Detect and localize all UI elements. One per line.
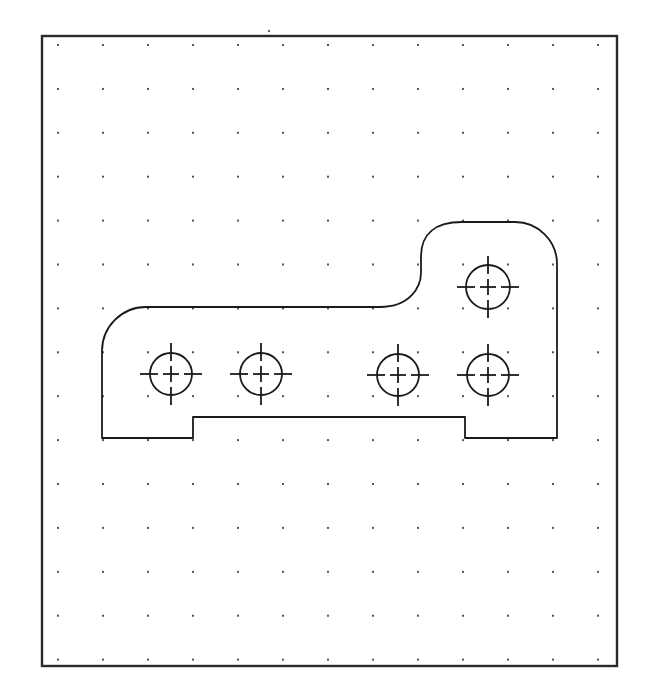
grid-dot — [102, 176, 104, 178]
grid-dot — [597, 483, 599, 485]
grid-dot — [507, 351, 509, 353]
grid-dot — [327, 44, 329, 46]
grid-dot — [507, 264, 509, 266]
grid-dot — [147, 439, 149, 441]
grid-dot — [192, 659, 194, 661]
grid-dot — [552, 659, 554, 661]
grid-dot — [102, 264, 104, 266]
grid-dot — [282, 44, 284, 46]
grid-dot — [597, 439, 599, 441]
grid-dot — [147, 88, 149, 90]
grid-dot — [417, 351, 419, 353]
grid-dot — [57, 44, 59, 46]
grid-dot — [327, 264, 329, 266]
grid-dot — [372, 176, 374, 178]
grid-dot — [372, 483, 374, 485]
grid-dot — [417, 395, 419, 397]
grid-dot — [597, 132, 599, 134]
grid-dot — [57, 220, 59, 222]
grid-dot — [462, 527, 464, 529]
grid-dot — [192, 571, 194, 573]
grid-dot — [102, 527, 104, 529]
grid-dot — [372, 659, 374, 661]
grid-dot — [147, 132, 149, 134]
grid-dot — [282, 176, 284, 178]
grid-dot — [147, 44, 149, 46]
grid-dot — [282, 571, 284, 573]
grid-dot — [102, 132, 104, 134]
grid-dot — [507, 176, 509, 178]
grid-dot — [192, 439, 194, 441]
grid-dot — [237, 351, 239, 353]
grid-dot — [597, 615, 599, 617]
grid-dot — [417, 220, 419, 222]
grid-dot — [102, 615, 104, 617]
grid-dot — [552, 483, 554, 485]
grid-dot — [282, 483, 284, 485]
grid-dot — [507, 44, 509, 46]
grid-dot — [417, 615, 419, 617]
grid-dot — [507, 483, 509, 485]
grid-dot — [237, 659, 239, 661]
grid-dot — [237, 527, 239, 529]
grid-dot — [462, 307, 464, 309]
grid-dot — [507, 659, 509, 661]
grid-dot — [192, 483, 194, 485]
grid-dot — [282, 88, 284, 90]
grid-dot — [147, 264, 149, 266]
grid-dot — [282, 395, 284, 397]
grid-dot — [552, 307, 554, 309]
grid-dot — [507, 439, 509, 441]
grid-dot — [282, 220, 284, 222]
grid-dot — [102, 220, 104, 222]
grid-dot — [147, 571, 149, 573]
grid-dot — [57, 264, 59, 266]
grid-dot — [327, 483, 329, 485]
grid-dot — [552, 264, 554, 266]
grid-dot — [192, 527, 194, 529]
grid-dot — [597, 44, 599, 46]
grid-dot — [192, 176, 194, 178]
grid-dot — [372, 220, 374, 222]
grid-dot — [597, 264, 599, 266]
grid-dot — [192, 220, 194, 222]
grid-dot — [372, 351, 374, 353]
grid-dot — [282, 351, 284, 353]
grid-dot — [552, 351, 554, 353]
grid-dot — [57, 527, 59, 529]
grid-dot — [552, 176, 554, 178]
grid-dot — [147, 176, 149, 178]
grid-dot — [237, 88, 239, 90]
grid-dot — [192, 132, 194, 134]
grid-dot — [417, 88, 419, 90]
grid-dot — [372, 439, 374, 441]
grid-dot — [327, 527, 329, 529]
grid-dot — [327, 351, 329, 353]
grid-dot — [57, 659, 59, 661]
stray-dot — [268, 30, 270, 32]
grid-dot — [57, 439, 59, 441]
grid-dot — [462, 264, 464, 266]
grid-dot — [597, 395, 599, 397]
grid-dot — [282, 659, 284, 661]
grid-dot — [462, 439, 464, 441]
grid-dot — [237, 220, 239, 222]
grid-dot — [237, 615, 239, 617]
grid-dot — [372, 571, 374, 573]
grid-dot — [327, 220, 329, 222]
grid-dot — [57, 132, 59, 134]
grid-dot — [552, 571, 554, 573]
grid-dot — [417, 176, 419, 178]
drawing-canvas — [0, 0, 654, 695]
grid-dot — [282, 527, 284, 529]
grid-dot — [147, 395, 149, 397]
grid-dot — [147, 351, 149, 353]
grid-dot — [462, 176, 464, 178]
grid-dot — [327, 88, 329, 90]
grid-dot — [192, 264, 194, 266]
grid-dot — [372, 44, 374, 46]
grid-dot — [417, 571, 419, 573]
grid-dot — [372, 395, 374, 397]
grid-dot — [282, 439, 284, 441]
grid-dot — [507, 571, 509, 573]
